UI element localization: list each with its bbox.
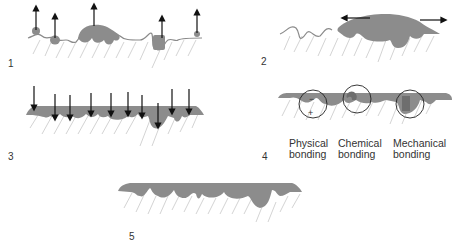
- chemical-bonding-label: Chemical bonding: [338, 138, 382, 160]
- panel-number-3: 3: [8, 151, 14, 162]
- positive-charge: +: [308, 108, 313, 119]
- substrate-hatch: [33, 40, 196, 68]
- panel-1-illustration: [28, 6, 202, 68]
- adhesion-diagram: [0, 0, 460, 245]
- panel-3-illustration: [26, 86, 204, 146]
- physical-bonding-label: Physical bonding: [289, 138, 328, 160]
- negative-charge: −: [309, 94, 314, 105]
- panel-5-illustration: [118, 183, 302, 222]
- pressed-adhesive: [26, 106, 204, 128]
- panel-number-5: 5: [129, 231, 135, 242]
- panel-2-illustration: [280, 14, 444, 62]
- panel-number-2: 2: [261, 56, 267, 67]
- panel-4-illustration: [278, 85, 452, 124]
- continuous-adhesive-layer: [118, 183, 302, 208]
- panel-number-1: 1: [8, 58, 14, 69]
- mechanical-bonding-label: Mechanical bonding: [393, 138, 446, 160]
- spreading-adhesive: [337, 14, 440, 48]
- panel-number-4: 4: [262, 151, 268, 162]
- substrate-surface: [280, 27, 332, 38]
- substrate-hatch: [284, 36, 434, 62]
- adhesive-droplets: [32, 25, 200, 50]
- mechanical-bond-detail: [402, 96, 410, 111]
